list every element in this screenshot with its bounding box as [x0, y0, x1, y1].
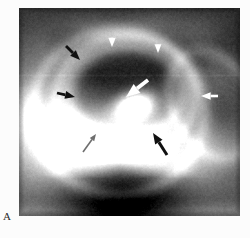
figure-part-label: A	[3, 210, 11, 222]
figure-page: A	[0, 0, 250, 238]
radiograph-image	[19, 8, 240, 216]
radiograph-canvas	[19, 8, 240, 216]
